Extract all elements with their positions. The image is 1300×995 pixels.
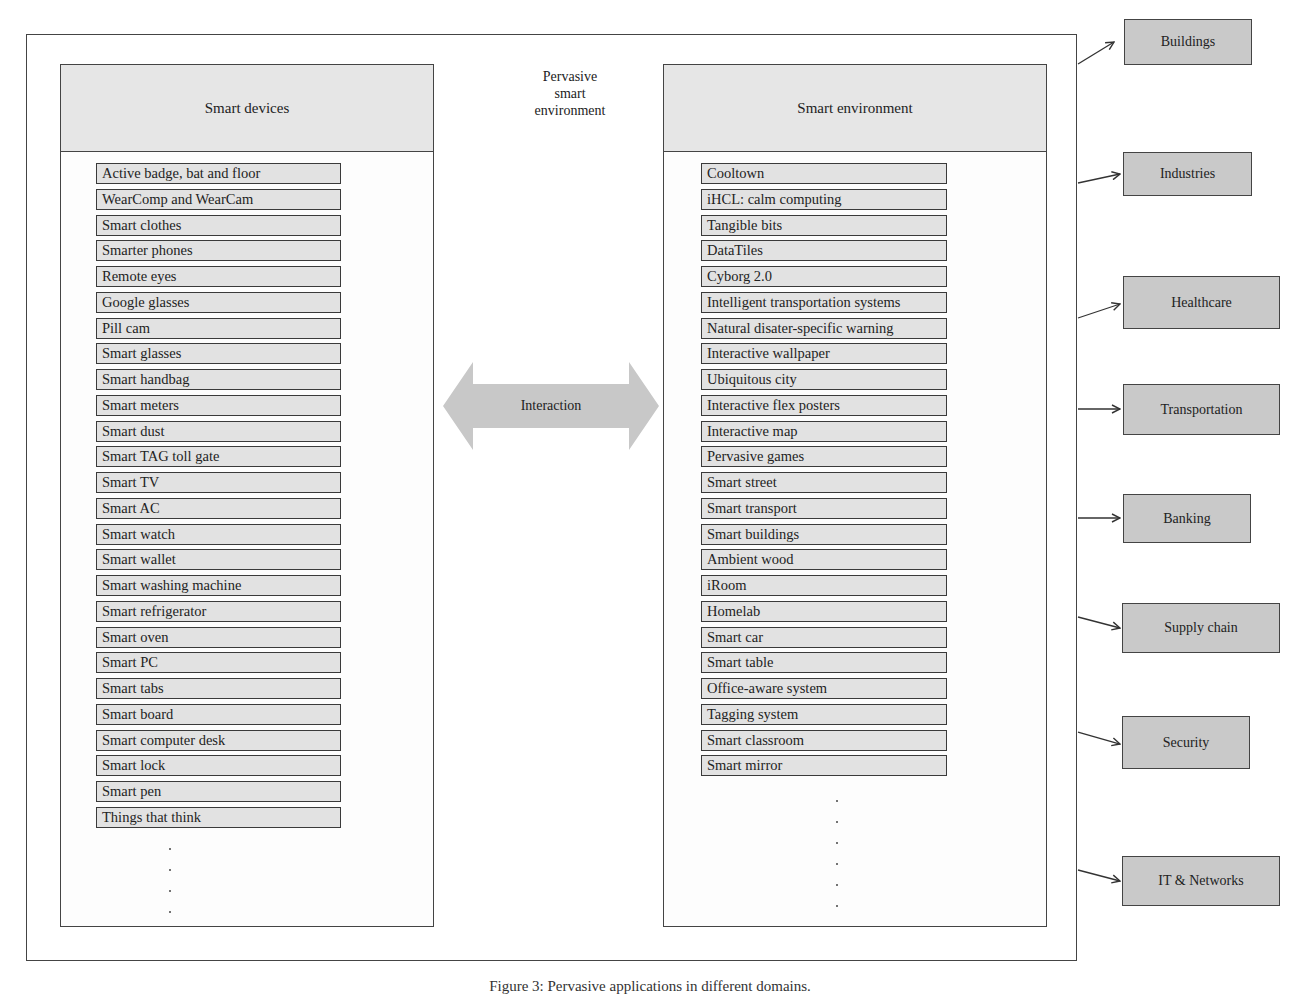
arrow-industries bbox=[1078, 174, 1120, 183]
domain-security: Security bbox=[1122, 716, 1250, 769]
arrow-it-networks bbox=[1078, 870, 1120, 881]
domain-industries: Industries bbox=[1123, 152, 1252, 196]
arrow-supply-chain bbox=[1078, 617, 1120, 628]
arrow-security bbox=[1078, 732, 1120, 744]
domain-it-networks: IT & Networks bbox=[1122, 856, 1280, 906]
domain-buildings: Buildings bbox=[1124, 19, 1252, 65]
domain-banking: Banking bbox=[1123, 494, 1251, 543]
domain-healthcare: Healthcare bbox=[1123, 276, 1280, 329]
arrow-healthcare bbox=[1078, 304, 1120, 318]
domain-supply-chain: Supply chain bbox=[1122, 603, 1280, 653]
arrow-buildings bbox=[1078, 42, 1114, 64]
domain-transportation: Transportation bbox=[1123, 384, 1280, 435]
figure-caption: Figure 3: Pervasive applications in diff… bbox=[0, 978, 1300, 995]
